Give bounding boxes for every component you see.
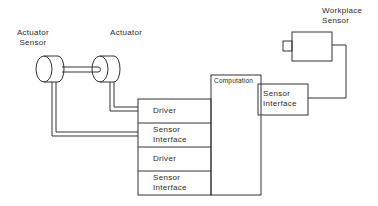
workplace-sensor-wire: [308, 45, 346, 98]
stack-item-line1: Driver: [153, 154, 176, 164]
right-sensor-interface-line2: Interface: [263, 99, 297, 109]
right-sensor-interface-line1: Sensor: [263, 89, 297, 99]
actuator-sensor-cylinder: [36, 56, 64, 82]
actuator-sensor-label-line1: Actuator: [13, 28, 53, 38]
stack-item-line2: Interface: [153, 135, 187, 145]
actuator-sensor-label-line2: Sensor: [13, 38, 53, 48]
right-sensor-interface-label: Sensor Interface: [263, 89, 297, 109]
stack-item-line1: Sensor: [153, 125, 187, 135]
actuator-shaft: [62, 67, 101, 72]
actuator-sensor-label: Actuator Sensor: [13, 28, 53, 48]
workplace-sensor-label-line1: Workplace: [322, 6, 362, 16]
stack-item-line1: Sensor: [153, 173, 187, 183]
computation-label: Computation: [214, 77, 253, 85]
actuator-label: Actuator: [110, 28, 142, 38]
stack-item-driver-2: Driver: [153, 154, 176, 164]
computation-box: [211, 75, 261, 195]
workplace-sensor: [283, 32, 332, 61]
workplace-sensor-label: Workplace Sensor: [322, 6, 362, 26]
diagram-canvas: [0, 0, 378, 206]
workplace-sensor-label-line2: Sensor: [322, 16, 362, 26]
stack-item-driver-1: Driver: [153, 106, 176, 116]
stack-item-sensor-interface-2: Sensor Interface: [153, 173, 187, 193]
stack-item-sensor-interface-1: Sensor Interface: [153, 125, 187, 145]
actuator-cylinder: [92, 56, 120, 82]
stack-item-line2: Interface: [153, 183, 187, 193]
actuator-sensor-to-interface-wire: [52, 82, 138, 136]
stack-item-line1: Driver: [153, 106, 176, 116]
actuator-to-driver-wire: [110, 82, 138, 111]
